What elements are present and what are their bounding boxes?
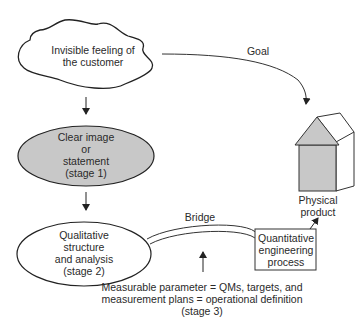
stage1-label: Clear image or statement (stage 1) (36, 131, 136, 179)
stage1-label-line: Clear image (36, 131, 136, 143)
cloud-label-line: Invisible feeling of (38, 44, 148, 56)
bridge-label: Bridge (175, 211, 225, 223)
stage2-label-line: (stage 2) (34, 265, 134, 277)
goal-arrow (162, 54, 306, 104)
stage2-label-line: structure (34, 241, 134, 253)
annotation-line: (stage 3) (82, 305, 322, 317)
stage1-label-line: (stage 1) (36, 167, 136, 179)
stage2-label-line: Qualitative (34, 229, 134, 241)
quant-label: Quantitative engineering process (255, 232, 317, 268)
arrow-quant-to-product (310, 218, 318, 229)
product-label-line: Physical (292, 194, 344, 206)
cloud-label: Invisible feeling of the customer (38, 44, 148, 68)
stage1-label-line: statement (36, 155, 136, 167)
quant-label-line: process (255, 256, 317, 268)
stage2-label: Qualitative structure and analysis (stag… (34, 229, 134, 277)
quant-label-line: engineering (255, 244, 317, 256)
measurement-annotation: Measurable parameter = QMs, targets, and… (82, 281, 322, 317)
quant-label-line: Quantitative (255, 232, 317, 244)
stage2-label-line: and analysis (34, 253, 134, 265)
stage1-label-line: or (36, 143, 136, 155)
house-icon (295, 113, 354, 191)
product-label: Physical product (292, 194, 344, 218)
product-label-line: product (292, 206, 344, 218)
annotation-line: measurement plans = operational definiti… (82, 293, 322, 305)
goal-label: Goal (238, 45, 278, 57)
annotation-line: Measurable parameter = QMs, targets, and (82, 281, 322, 293)
cloud-label-line: the customer (38, 56, 148, 68)
bridge-inner (150, 231, 257, 244)
